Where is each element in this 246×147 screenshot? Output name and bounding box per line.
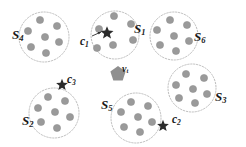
data-point-dot [42,49,49,56]
data-point-dot [144,102,151,109]
data-point-dot [109,41,116,48]
centroid-label-c1: c1 [80,36,89,48]
data-point-dot [66,113,73,120]
cluster-label-s1: S1 [134,22,146,36]
data-point-dot [182,70,189,77]
data-point-dot [136,128,143,135]
data-point-dot [153,26,160,33]
data-point-dot [37,118,44,125]
data-point-dot [24,27,31,34]
data-point-dot [170,32,177,39]
data-point-dot [191,99,198,106]
data-point-dot [55,38,62,45]
centroid-arrow-group [92,32,101,36]
data-point-dot [134,113,141,120]
data-point-dot [189,85,196,92]
cluster-label-subscript: 6 [201,35,205,45]
centroid-label-subscript: 1 [85,40,89,49]
cluster-label-s2: S2 [22,114,34,128]
centroid-label-c3: c3 [67,74,76,86]
data-point-dot [61,97,68,104]
data-point-dot [172,81,179,88]
data-point-dot [148,118,155,125]
data-point-dot [156,41,163,48]
data-point-dot [203,90,210,97]
cluster-label-subscript: 5 [108,103,112,113]
data-point-dot [117,108,124,115]
data-point-dot [36,16,43,23]
target-node-label: vt [122,64,128,75]
cluster-label-s5: S5 [101,98,113,112]
cluster-label-s6: S6 [194,30,206,44]
data-point-dot [53,22,60,29]
data-point-dot [44,93,51,100]
data-point-dot [172,47,179,54]
data-point-dot [166,16,173,23]
data-point-dot [110,12,117,19]
cluster-label-subscript: 3 [222,95,226,105]
centroid-label-subscript: 3 [72,78,76,87]
data-point-dot [183,21,190,28]
target-node-label-subscript: t [126,67,128,74]
cluster-label-subscript: 1 [141,27,145,37]
cluster-label-s4: S4 [12,28,24,42]
cluster-label-subscript: 2 [29,119,33,129]
data-point-dot [34,104,41,111]
data-point-dot [200,74,207,81]
data-point-dot [93,44,100,51]
centroid-label-c2: c2 [172,114,181,126]
data-point-dot [41,33,48,40]
data-point-dot [185,37,192,44]
data-point-dot [51,108,58,115]
data-point-dot [27,43,34,50]
data-point-dot [127,98,134,105]
data-point-dot [120,123,127,130]
figure-canvas: S1S6S4S3S2S5c1c3c2vt [0,0,246,147]
cluster-label-s3: S3 [215,90,227,104]
data-point-dot [129,36,136,43]
centroid-star-c2 [157,120,169,131]
data-point-dot [175,94,182,101]
centroid-label-subscript: 2 [177,118,181,127]
data-point-dot [53,124,60,131]
cluster-label-subscript: 4 [19,33,23,43]
